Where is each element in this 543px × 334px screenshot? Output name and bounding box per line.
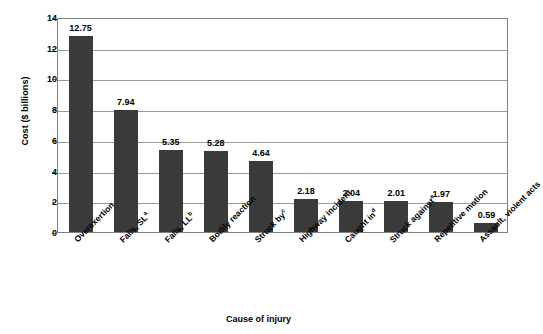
y-tick-mark bbox=[52, 49, 56, 50]
y-tick-mark bbox=[52, 141, 56, 142]
y-tick-label: 12 bbox=[11, 44, 57, 54]
y-tick-label: 10 bbox=[11, 74, 57, 84]
bar-value-label: 0.59 bbox=[478, 210, 496, 220]
bar-value-label: 7.94 bbox=[117, 97, 135, 107]
bar-group[interactable]: 2.01 bbox=[384, 19, 408, 232]
y-tick-mark bbox=[52, 233, 56, 234]
x-axis-category-labels: OverexertionFalls, SLaFalls, LLbBodily r… bbox=[57, 234, 508, 304]
x-axis-title: Cause of injury bbox=[0, 314, 517, 324]
y-axis-ticks: 02468101214 bbox=[0, 18, 57, 233]
y-tick-label: 8 bbox=[11, 105, 57, 115]
y-tick-label: 6 bbox=[11, 136, 57, 146]
bar-value-label: 5.28 bbox=[207, 138, 225, 148]
bar-group[interactable]: 7.94 bbox=[114, 19, 138, 232]
bar-value-label: 2.18 bbox=[297, 186, 315, 196]
bar-value-label: 2.01 bbox=[387, 188, 405, 198]
y-tick-mark bbox=[52, 202, 56, 203]
plot-area: 12.757.945.355.284.642.182.042.011.970.5… bbox=[57, 18, 508, 233]
bar-value-label: 4.64 bbox=[252, 148, 270, 158]
bar-group[interactable]: 2.18 bbox=[294, 19, 318, 232]
bar[interactable] bbox=[114, 110, 138, 232]
y-tick-label: 0 bbox=[11, 228, 57, 238]
y-tick-mark bbox=[52, 172, 56, 173]
y-tick-mark bbox=[52, 110, 56, 111]
y-tick-label: 2 bbox=[11, 197, 57, 207]
y-tick-label: 14 bbox=[11, 13, 57, 23]
y-tick-label: 4 bbox=[11, 167, 57, 177]
bar-group[interactable]: 5.35 bbox=[159, 19, 183, 232]
y-tick-mark bbox=[52, 79, 56, 80]
bar-group[interactable]: 12.75 bbox=[69, 19, 93, 232]
bar-value-label: 5.35 bbox=[162, 137, 180, 147]
bar-group[interactable]: 5.28 bbox=[204, 19, 228, 232]
bar[interactable] bbox=[69, 36, 93, 232]
bar-value-label: 12.75 bbox=[69, 23, 92, 33]
y-tick-mark bbox=[52, 18, 56, 19]
